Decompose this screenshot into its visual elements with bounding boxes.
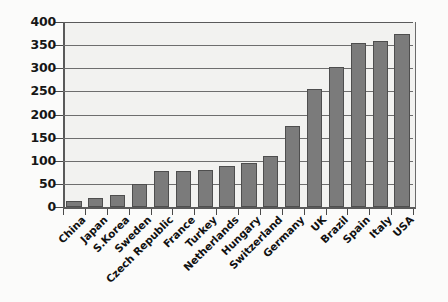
x-tick-16: [413, 209, 414, 215]
y-axis-label-400: 400: [10, 16, 56, 29]
bar-italy: [373, 41, 388, 208]
x-tick-5: [172, 209, 173, 215]
x-tick-1: [85, 209, 86, 215]
y-axis-label-0: 0: [10, 201, 56, 214]
x-tick-13: [347, 209, 348, 215]
x-tick-0: [63, 209, 64, 215]
bar-france: [176, 171, 191, 207]
x-tick-11: [304, 209, 305, 215]
bar-hungary: [241, 163, 256, 207]
y-axis-label-150: 150: [10, 132, 56, 145]
x-tick-10: [282, 209, 283, 215]
bar-china: [66, 201, 81, 207]
x-tick-2: [107, 209, 108, 215]
y-axis-label-250: 250: [10, 85, 56, 98]
x-tick-8: [238, 209, 239, 215]
bar-brazil: [329, 67, 344, 207]
bar-uk: [307, 89, 322, 207]
bar-germany: [285, 126, 300, 207]
bar-spain: [351, 43, 366, 207]
y-axis-label-350: 350: [10, 39, 56, 52]
y-axis-label-50: 50: [10, 178, 56, 191]
x-tick-15: [391, 209, 392, 215]
x-tick-4: [151, 209, 152, 215]
bar-netherlands: [219, 166, 234, 207]
y-axis-label-300: 300: [10, 62, 56, 75]
x-tick-9: [260, 209, 261, 215]
bar-czech-republic: [154, 171, 169, 207]
gridline-400: [63, 22, 413, 23]
x-tick-14: [369, 209, 370, 215]
bar-japan: [88, 198, 103, 207]
y-axis-label-200: 200: [10, 109, 56, 122]
bar-s-korea: [110, 195, 125, 207]
bar-usa: [394, 34, 409, 207]
bar-sweden: [132, 184, 147, 207]
x-tick-6: [194, 209, 195, 215]
bar-chart: 050100150200250300350400 ChinaJapanS.Kor…: [0, 0, 448, 302]
x-tick-3: [129, 209, 130, 215]
x-tick-12: [326, 209, 327, 215]
bar-turkey: [198, 170, 213, 207]
bar-switzerland: [263, 156, 278, 207]
y-axis-label-100: 100: [10, 155, 56, 168]
x-tick-7: [216, 209, 217, 215]
